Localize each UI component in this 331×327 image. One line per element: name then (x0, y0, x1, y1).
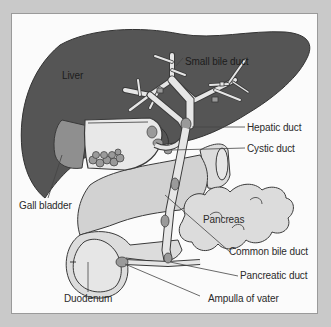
label-common-bile-duct: Common bile duct (229, 247, 308, 257)
label-hepatic-duct: Hepatic duct (247, 123, 301, 133)
label-pancreas: Pancreas (203, 215, 244, 225)
label-gall-bladder: Gall bladder (19, 201, 72, 211)
label-small-bile-duct: Small bile duct (185, 57, 249, 67)
label-liver: Liver (62, 71, 83, 81)
label-duodenum: Duodenum (64, 294, 112, 304)
label-pancreatic-duct: Pancreatic duct (240, 271, 307, 281)
gall-bladder-shape (54, 120, 88, 168)
label-cystic-duct: Cystic duct (247, 144, 295, 154)
label-ampulla-of-vater: Ampulla of vater (208, 294, 279, 304)
